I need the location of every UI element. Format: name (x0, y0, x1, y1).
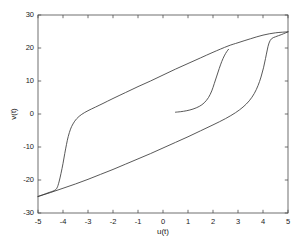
y-tick-label: 10 (0, 77, 34, 85)
series-upper-branch (38, 32, 288, 197)
x-tick-label: 2 (211, 218, 215, 226)
plot-svg (0, 0, 305, 247)
x-tick-label: -2 (110, 218, 117, 226)
x-axis-ticks (38, 15, 288, 213)
x-tick-label: -5 (35, 218, 42, 226)
y-tick-label: -10 (0, 143, 34, 151)
x-tick-label: -3 (85, 218, 92, 226)
x-tick-label: 3 (236, 218, 240, 226)
x-tick-label: 1 (186, 218, 190, 226)
x-tick-label: -1 (135, 218, 142, 226)
data-series-layer (38, 32, 288, 197)
figure-canvas: -5-4-3-2-1012345 -30-20-100102030 u(t) v… (0, 0, 305, 247)
y-tick-label: 20 (0, 44, 34, 52)
y-tick-label: -20 (0, 176, 34, 184)
x-tick-label: 4 (261, 218, 265, 226)
x-tick-label: 5 (286, 218, 290, 226)
y-axis-title: v(t) (10, 108, 18, 120)
y-axis-ticks (38, 15, 288, 213)
y-tick-label: -30 (0, 209, 34, 217)
series-lower-branch (38, 32, 288, 197)
x-axis-title: u(t) (157, 228, 169, 236)
x-tick-label: -4 (60, 218, 67, 226)
axes-frame (38, 15, 288, 213)
y-tick-label: 30 (0, 11, 34, 19)
series-inner-minor-loop (176, 49, 229, 112)
x-tick-label: 0 (161, 218, 165, 226)
